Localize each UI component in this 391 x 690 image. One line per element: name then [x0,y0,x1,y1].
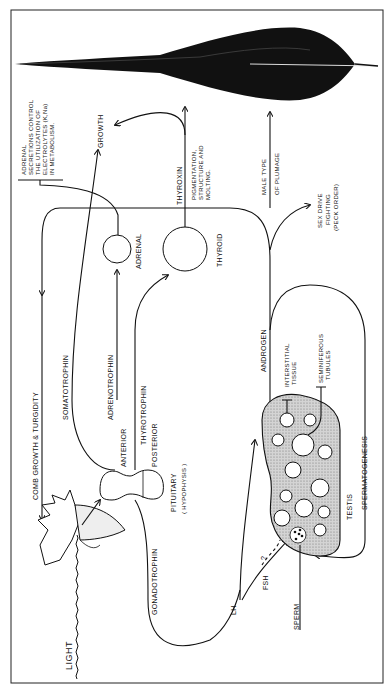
sex-drive-line-3: (PECK ORDER) [333,184,339,231]
male-plumage-line-2: OF PLUMAGE [274,153,280,195]
pituitary-gland [100,470,163,500]
adrenotrophin-label: ADRENOTROPHIN [107,355,114,420]
sperm-cluster [290,527,306,543]
androgen-label: ANDROGEN [260,329,267,372]
seminiferous-line-1: SEMINIFEROUS [318,334,324,383]
interstitial-line-1: INTERSTITIAL [284,343,290,387]
thyroid-gland [163,227,207,271]
pigmentation-line-2: STRUCTURE AND [198,145,204,200]
adrenal-note-line-3: THE UTILIZATION OF [35,110,41,175]
seminiferous-line-2: TUBULES [325,350,331,380]
hypophysis-label: ( HYPOPHYSIS ) [181,463,187,514]
lh-label: LH [230,605,237,615]
androgen-to-comb-arrow [42,208,270,405]
sperm-label: SPERM [293,604,300,630]
somatotrophin-arrow [72,150,115,470]
growth-label: GROWTH [97,114,104,148]
lh-arrow [240,440,255,600]
testis-organ [262,394,340,556]
sex-drive-line-1: SEX DRIVE [317,193,323,228]
testis-label: TESTIS [346,494,353,520]
frame-border [11,10,383,683]
rooster-head-illustration [38,490,125,565]
pituitary-label: PITUITARY [170,473,177,512]
somatotrophin-label: SOMATOTROPHIN [62,355,69,420]
sex-drive-line-2: FIGHTING [325,194,331,225]
adrenal-gland [103,235,131,263]
adrenal-note-line-1: ADRENAL [21,144,27,175]
adrenal-label: ADRENAL [135,234,142,269]
thyrotrophin-label: THYROTROPHIN [140,385,147,445]
pigmentation-line-1: PIGMENTATION, [191,150,197,200]
gonadotrophin-label: GONADOTROPHIN [151,548,158,615]
posterior-label: POSTERIOR [151,423,158,467]
comb-growth-label: COMB GROWTH & TURGIDITY [32,392,39,500]
fsh-label: FSH [262,575,269,590]
pigmentation-line-3: MOLTING. [205,169,211,200]
light-wave [76,535,78,679]
male-plumage-line-1: MALE TYPE [261,159,267,195]
adrenal-note-line-4: ELECTROLYTES (K,Na) [42,103,48,175]
sex-drive-arrow [270,205,310,250]
thyroxin-label: THYROXIN [176,166,183,205]
feather-illustration [15,28,378,101]
question-mark: ? [260,556,267,560]
adrenal-note-line-5: IN METABOLISM. [49,123,55,175]
adrenal-note-line-2: SECRETIONS CONTROL [28,99,34,175]
endocrine-diagram: ADRENAL SECRETIONS CONTROL THE UTILIZATI… [0,0,391,690]
spermatogenesis-label: SPERMATOGENESIS [361,436,368,510]
thyroxin-to-growth-arrow [115,113,185,135]
light-label: LIGHT [64,641,74,670]
interstitial-line-2: TISSUE [291,362,297,385]
anterior-label: ANTERIOR [120,428,127,467]
thyroid-label: THYROID [216,233,223,267]
fsh-arrow [242,540,288,600]
